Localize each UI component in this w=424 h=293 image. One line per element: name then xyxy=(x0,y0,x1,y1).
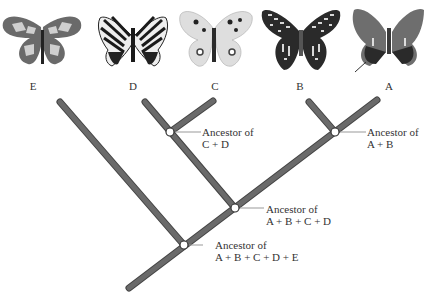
branch-b xyxy=(309,102,335,132)
taxon-label-a: A xyxy=(379,80,399,92)
node-label-ancestor-abcde: Ancestor of A + B + C + D + E xyxy=(215,239,299,263)
taxon-label-e: E xyxy=(23,80,43,92)
node-label-line1: Ancestor of xyxy=(215,239,299,251)
butterfly-c-image xyxy=(180,12,253,67)
node-ancestor-abcde xyxy=(180,241,188,249)
node-label-line1: Ancestor of xyxy=(202,126,254,138)
node-label-line2: A + B xyxy=(367,138,419,150)
node-label-line2: C + D xyxy=(202,138,254,150)
taxon-label-c: C xyxy=(205,80,225,92)
node-label-ancestor-abcd: Ancestor of A + B + C + D xyxy=(266,203,331,227)
butterfly-a-image xyxy=(353,9,424,72)
node-label-line1: Ancestor of xyxy=(266,203,331,215)
node-label-ancestor-cd: Ancestor of C + D xyxy=(202,126,254,150)
taxon-label-b: B xyxy=(290,80,310,92)
node-ancestor-abcd xyxy=(231,204,239,212)
node-label-line2: A + B + C + D + E xyxy=(215,251,299,263)
butterfly-e-image xyxy=(3,17,82,65)
taxon-label-d: D xyxy=(123,80,143,92)
butterfly-d-image xyxy=(98,17,167,66)
node-label-line1: Ancestor of xyxy=(367,126,419,138)
phylogenetic-tree-figure: E D C B A Ancestor of C + D Ancestor of … xyxy=(0,0,424,293)
node-ancestor-ab xyxy=(331,128,339,136)
butterfly-b-image xyxy=(262,10,341,70)
node-label-ancestor-ab: Ancestor of A + B xyxy=(367,126,419,150)
node-ancestor-cd xyxy=(166,128,174,136)
node-label-line2: A + B + C + D xyxy=(266,215,331,227)
